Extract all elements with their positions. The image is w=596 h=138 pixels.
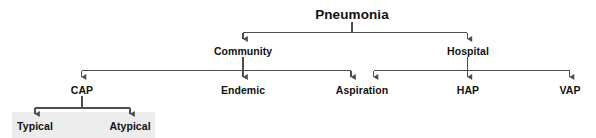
node-pneumonia: Pneumonia <box>315 8 389 22</box>
node-community: Community <box>214 46 272 57</box>
tree-connectors <box>0 0 596 138</box>
node-typical: Typical <box>17 121 53 132</box>
node-aspiration: Aspiration <box>336 85 388 96</box>
node-endemic: Endemic <box>221 85 265 96</box>
node-hap: HAP <box>457 85 479 96</box>
pneumonia-classification-diagram: Pneumonia Community Hospital CAP Endemic… <box>0 0 596 138</box>
node-atypical: Atypical <box>109 121 150 132</box>
node-vap: VAP <box>560 85 581 96</box>
node-cap: CAP <box>71 85 93 96</box>
node-hospital: Hospital <box>447 46 489 57</box>
